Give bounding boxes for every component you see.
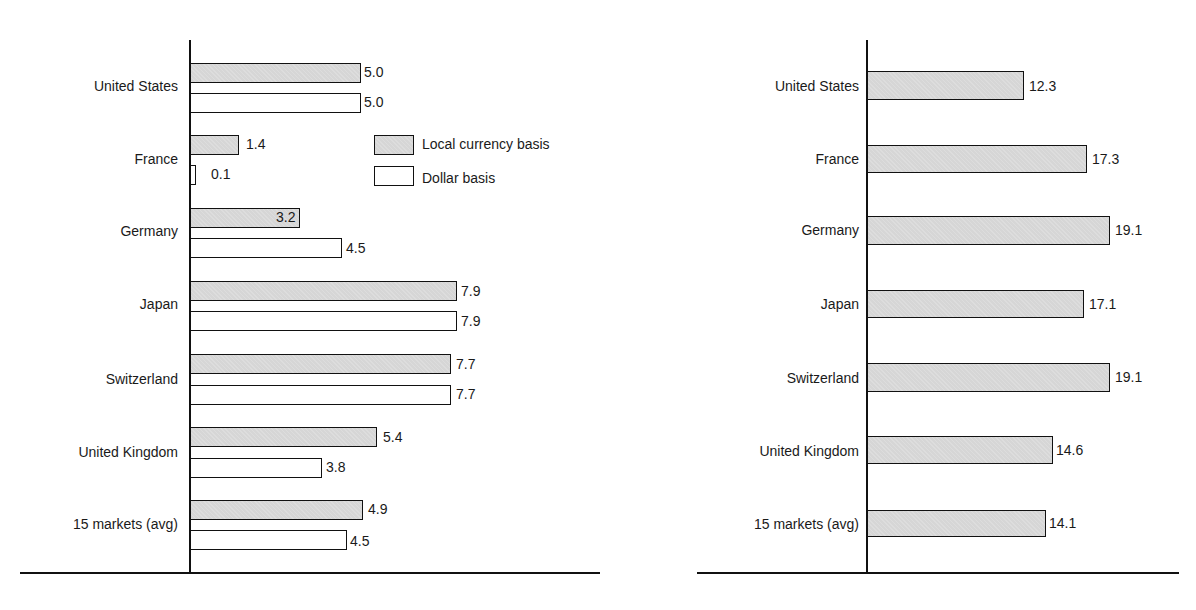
value-label: 14.6: [1056, 442, 1083, 458]
bar-japan: [867, 290, 1084, 318]
category-label: Japan: [821, 296, 859, 312]
bar-switzerland: [867, 363, 1110, 392]
bar-germany: [867, 216, 1110, 245]
value-label: 17.1: [1089, 296, 1116, 312]
bar-united-kingdom: [867, 436, 1053, 464]
category-label: Germany: [801, 222, 859, 238]
category-label: 15 markets (avg): [754, 516, 859, 532]
bar-france: [867, 145, 1087, 173]
right-chart: United States 12.3 France 17.3 Germany 1…: [0, 0, 1196, 610]
category-label: United Kingdom: [759, 443, 859, 459]
category-label: Switzerland: [787, 370, 859, 386]
value-label: 14.1: [1049, 515, 1076, 531]
bar-united-states: [867, 71, 1024, 100]
value-label: 19.1: [1115, 369, 1142, 385]
category-label: France: [815, 151, 859, 167]
right-x-baseline: [697, 572, 1179, 574]
bar-15-markets: [867, 510, 1046, 537]
value-label: 17.3: [1092, 151, 1119, 167]
value-label: 12.3: [1029, 78, 1056, 94]
category-label: United States: [775, 78, 859, 94]
value-label: 19.1: [1115, 222, 1142, 238]
